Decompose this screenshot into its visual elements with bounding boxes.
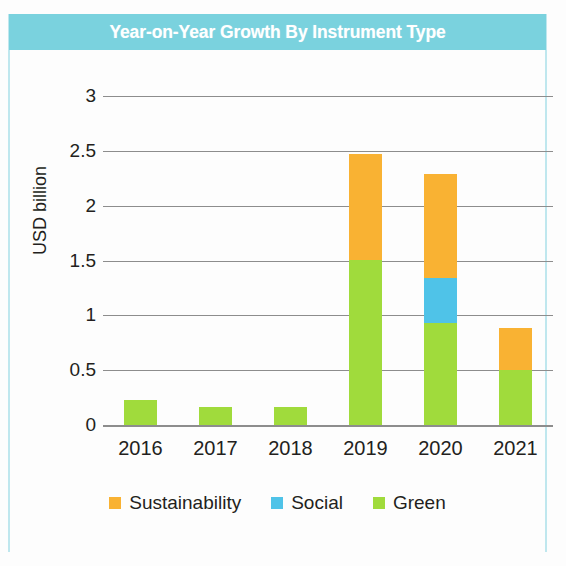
bar-stack	[424, 174, 457, 425]
x-axis-tick-label: 2020	[403, 437, 478, 460]
legend-item[interactable]: Sustainability	[109, 492, 241, 514]
bar-stack	[124, 400, 157, 425]
x-axis-tick-label: 2019	[328, 437, 403, 460]
bar-stack	[499, 328, 532, 425]
bar-segment-green	[274, 407, 307, 425]
bar-segment-green	[199, 407, 232, 425]
plot-area: 00.511.522.53 USD billion 20162017201820…	[0, 0, 566, 566]
legend-label: Green	[393, 492, 446, 514]
bar-stack	[274, 407, 307, 425]
x-axis-tick-label: 2018	[253, 437, 328, 460]
bar-segment-sustainability	[424, 174, 457, 278]
bar-segment-sustainability	[349, 154, 382, 260]
bar-segment-social	[424, 278, 457, 323]
chart-figure: Year-on-Year Growth By Instrument Type 0…	[0, 0, 566, 566]
y-axis-label: USD billion	[30, 121, 51, 301]
legend-item[interactable]: Green	[373, 492, 446, 514]
bar-group: 2016	[103, 0, 178, 566]
bar-group: 2021	[478, 0, 553, 566]
legend-label: Sustainability	[129, 492, 241, 514]
bar-segment-green	[124, 400, 157, 425]
bar-segment-green	[424, 323, 457, 425]
x-axis-tick-label: 2016	[103, 437, 178, 460]
bar-group: 2017	[178, 0, 253, 566]
chart-legend: SustainabilitySocialGreen	[9, 492, 546, 514]
bar-stack	[199, 407, 232, 425]
bar-group: 2019	[328, 0, 403, 566]
bar-segment-green	[349, 260, 382, 425]
bar-stack	[349, 154, 382, 425]
legend-item[interactable]: Social	[271, 492, 343, 514]
bar-segment-green	[499, 370, 532, 425]
x-axis-tick-label: 2017	[178, 437, 253, 460]
legend-label: Social	[291, 492, 343, 514]
y-axis-tick-label: 0	[38, 414, 96, 436]
y-axis-tick-label: 3	[38, 85, 96, 107]
x-axis-tick-label: 2021	[478, 437, 553, 460]
legend-swatch-sustainability	[109, 497, 121, 509]
legend-swatch-green	[373, 497, 385, 509]
y-axis-tick-label: 1	[38, 304, 96, 326]
legend-swatch-social	[271, 497, 283, 509]
y-axis-tick-label: 0.5	[38, 359, 96, 381]
bar-group: 2020	[403, 0, 478, 566]
bar-series-area: 201620172018201920202021	[103, 0, 553, 566]
bar-segment-sustainability	[499, 328, 532, 370]
bar-group: 2018	[253, 0, 328, 566]
